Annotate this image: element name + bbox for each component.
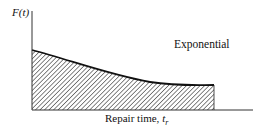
chart-canvas: [0, 0, 267, 129]
x-axis-label: Repair time, tr: [105, 112, 168, 127]
hatched-area: [32, 50, 214, 110]
x-axis-label-text: Repair time,: [105, 112, 159, 124]
y-axis-label: F(t): [12, 6, 29, 18]
x-axis-subscript: r: [165, 118, 168, 127]
series-annotation: Exponential: [174, 38, 230, 50]
